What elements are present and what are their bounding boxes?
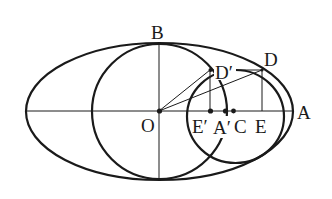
label-D: D	[264, 49, 278, 70]
label-B: B	[151, 22, 164, 43]
point-A-prime	[223, 108, 228, 113]
label-A: A	[297, 102, 311, 123]
label-O: O	[141, 115, 155, 136]
point-O	[157, 108, 162, 113]
label-D-prime: D′	[215, 62, 233, 83]
point-D-prime	[209, 68, 213, 72]
segment-OD-prime	[159, 70, 210, 111]
geometry-diagram: B D D′ O E′ A′ C E A	[0, 0, 332, 199]
label-C: C	[234, 116, 247, 137]
point-E-prime	[208, 108, 213, 113]
label-E: E	[255, 116, 267, 137]
label-E-prime: E′	[192, 116, 208, 137]
point-C	[231, 109, 236, 114]
label-A-prime: A′	[213, 117, 231, 138]
